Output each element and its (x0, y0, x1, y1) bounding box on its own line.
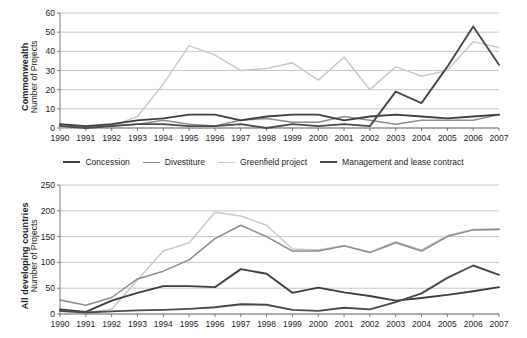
svg-text:2005: 2005 (438, 133, 457, 143)
svg-text:2007: 2007 (490, 133, 509, 143)
x-axis-ticks: 1990199119921993199419951996199719981999… (51, 314, 509, 329)
svg-text:1995: 1995 (180, 319, 199, 329)
svg-text:1993: 1993 (128, 319, 147, 329)
svg-text:1994: 1994 (154, 133, 173, 143)
svg-text:50: 50 (46, 283, 56, 293)
svg-text:2002: 2002 (360, 133, 379, 143)
svg-text:1990: 1990 (51, 133, 70, 143)
svg-text:1995: 1995 (180, 133, 199, 143)
series-line (60, 266, 499, 313)
legend-item-label: Divestiture (165, 157, 205, 167)
svg-text:2004: 2004 (412, 319, 431, 329)
y-axis-ticks: 0102030405060 (46, 8, 60, 133)
svg-text:2001: 2001 (335, 133, 354, 143)
series-line (60, 26, 499, 128)
svg-text:1992: 1992 (102, 133, 121, 143)
legend-item[interactable]: Divestiture (143, 157, 205, 167)
plot-area-all-developing-countries: 0501001502002501990199119921993199419951… (30, 176, 527, 336)
svg-text:200: 200 (41, 206, 55, 216)
svg-text:150: 150 (41, 232, 55, 242)
svg-text:1993: 1993 (128, 133, 147, 143)
chart-svg-all-developing-countries: 0501001502002501990199119921993199419951… (30, 176, 527, 336)
figure-container: Commonwealth Number of Projects 01020304… (0, 0, 527, 338)
svg-text:1994: 1994 (154, 319, 173, 329)
svg-text:2004: 2004 (412, 133, 431, 143)
chart-panel-all-developing-countries: All developing countries Number of Proje… (0, 176, 527, 336)
svg-text:2000: 2000 (309, 133, 328, 143)
svg-text:100: 100 (41, 257, 55, 267)
y-axis-ticks: 050100150200250 (41, 180, 60, 319)
svg-text:1991: 1991 (76, 133, 95, 143)
series-line (60, 269, 499, 312)
svg-text:2005: 2005 (438, 319, 457, 329)
svg-text:1996: 1996 (205, 319, 224, 329)
svg-text:2007: 2007 (490, 319, 509, 329)
chart-legend: ConcessionDivestitureGreenfield projectM… (0, 152, 527, 172)
x-axis-ticks: 1990199119921993199419951996199719981999… (51, 128, 509, 143)
svg-text:1991: 1991 (76, 319, 95, 329)
legend-item[interactable]: Management and lease contract (320, 157, 463, 167)
svg-text:2000: 2000 (309, 319, 328, 329)
grid-lines (60, 185, 499, 314)
svg-text:2006: 2006 (464, 133, 483, 143)
legend-item-label: Greenfield project (240, 157, 307, 167)
svg-text:2003: 2003 (386, 319, 405, 329)
chart-svg-commonwealth: 0102030405060199019911992199319941995199… (30, 4, 527, 150)
legend-item[interactable]: Concession (63, 157, 129, 167)
svg-text:0: 0 (50, 309, 55, 319)
svg-text:2003: 2003 (386, 133, 405, 143)
chart-panel-commonwealth: Commonwealth Number of Projects 01020304… (0, 4, 527, 150)
svg-text:1999: 1999 (283, 133, 302, 143)
svg-text:1999: 1999 (283, 319, 302, 329)
svg-text:2002: 2002 (360, 319, 379, 329)
legend-item-label: Management and lease contract (342, 157, 463, 167)
plot-area-commonwealth: 0102030405060199019911992199319941995199… (30, 4, 527, 150)
svg-text:250: 250 (41, 180, 55, 190)
svg-text:2006: 2006 (464, 319, 483, 329)
svg-text:60: 60 (46, 8, 56, 18)
svg-text:50: 50 (46, 27, 56, 37)
legend-item-label: Concession (85, 157, 129, 167)
svg-text:40: 40 (46, 46, 56, 56)
svg-text:1998: 1998 (257, 133, 276, 143)
svg-text:1997: 1997 (231, 319, 250, 329)
legend-line-icon (63, 161, 80, 163)
svg-text:10: 10 (46, 104, 56, 114)
svg-text:1998: 1998 (257, 319, 276, 329)
legend-line-icon (143, 162, 160, 163)
svg-text:1992: 1992 (102, 319, 121, 329)
svg-text:1996: 1996 (205, 133, 224, 143)
grid-lines (60, 13, 499, 128)
legend-line-icon (320, 161, 337, 163)
svg-text:30: 30 (46, 66, 56, 76)
svg-text:1990: 1990 (51, 319, 70, 329)
svg-text:20: 20 (46, 85, 56, 95)
svg-text:2001: 2001 (335, 319, 354, 329)
svg-text:0: 0 (50, 123, 55, 133)
legend-item[interactable]: Greenfield project (218, 157, 307, 167)
svg-text:1997: 1997 (231, 133, 250, 143)
legend-line-icon (218, 162, 235, 163)
